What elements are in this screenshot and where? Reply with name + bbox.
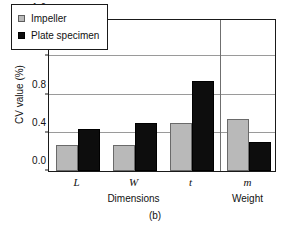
y-tick-mark: [45, 93, 49, 94]
bar-plate-specimen-m: [249, 142, 271, 171]
y-tick-label: 0.8: [32, 78, 46, 89]
chart-legend: Impeller Plate specimen: [11, 4, 108, 50]
y-axis-label: CV value (%): [14, 35, 25, 155]
legend-swatch-gray-square-icon: [18, 15, 25, 22]
y-tick-mark: [45, 170, 49, 171]
x-group-label-dimensions: Dimensions: [107, 193, 159, 204]
y-tick-mark: [45, 55, 49, 56]
figure-panel-b: CV value (%) 0.00.40.81.21.6 Impeller Pl…: [0, 0, 282, 228]
bar-impeller-t: [170, 123, 192, 171]
x-tick-label-W: W: [129, 176, 138, 188]
legend-item-plate-specimen: Plate specimen: [18, 27, 99, 44]
bar-impeller-m: [227, 119, 249, 171]
y-tick-label: 0.0: [32, 155, 46, 166]
legend-label-plate-specimen: Plate specimen: [31, 30, 99, 41]
x-group-label-weight: Weight: [232, 193, 263, 204]
y-tick-mark: [45, 131, 49, 132]
legend-item-impeller: Impeller: [18, 10, 99, 27]
bar-plate-specimen-W: [135, 123, 157, 171]
y-gridline: [49, 55, 275, 56]
bar-impeller-L: [56, 145, 78, 171]
bar-plate-specimen-t: [192, 81, 214, 171]
figure-caption: (b): [149, 210, 161, 221]
legend-label-impeller: Impeller: [31, 13, 67, 24]
bar-impeller-W: [113, 145, 135, 171]
x-tick-label-t: t: [189, 176, 192, 188]
legend-swatch-black-square-icon: [18, 32, 25, 39]
y-tick-label: 0.4: [32, 116, 46, 127]
x-tick-label-L: L: [73, 176, 79, 188]
bar-plate-specimen-L: [78, 129, 100, 171]
x-tick-label-m: m: [244, 176, 252, 188]
group-divider: [220, 20, 221, 171]
y-gridline: [49, 94, 275, 95]
